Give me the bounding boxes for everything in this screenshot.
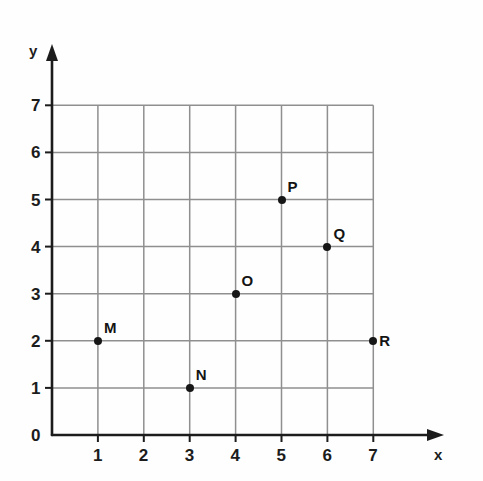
y-axis-arrow-icon	[46, 44, 58, 61]
y-axis-tick-label: 3	[31, 286, 40, 303]
data-point-marker	[94, 337, 102, 345]
axis-lines	[46, 44, 444, 441]
y-axis-title: y	[29, 43, 37, 58]
data-point-marker	[323, 243, 331, 251]
data-point-marker	[186, 384, 194, 392]
x-axis-tick-label: 3	[185, 447, 194, 464]
coordinate-plane-figure: 12345671234567 0 x y MNOPQR	[0, 0, 483, 481]
y-axis-tick-label: 4	[31, 239, 40, 256]
x-axis-tick-label: 7	[368, 447, 377, 464]
y-axis-tick-label: 5	[31, 192, 40, 209]
data-point-label: O	[242, 273, 254, 288]
y-axis-tick-label: 6	[31, 144, 40, 161]
data-point-marker	[232, 290, 240, 298]
y-axis-tick-label: 7	[31, 97, 40, 114]
data-point-label: M	[104, 320, 117, 335]
data-point-marker	[278, 196, 286, 204]
tick-marks	[45, 105, 373, 442]
data-point-label: N	[196, 367, 207, 382]
x-axis-tick-label: 6	[322, 447, 331, 464]
x-axis-tick-label: 5	[277, 447, 286, 464]
y-axis-tick-label: 2	[31, 333, 40, 350]
data-point-label: R	[379, 333, 390, 348]
x-axis-tick-label: 4	[231, 447, 240, 464]
x-axis-arrow-icon	[427, 429, 444, 441]
y-axis-tick-label: 1	[31, 380, 40, 397]
origin-tick-label: 0	[31, 427, 40, 444]
x-axis-title: x	[434, 447, 442, 462]
data-point-label: Q	[333, 226, 345, 241]
data-point-label: P	[288, 179, 298, 194]
grid-lines	[52, 105, 373, 435]
plot-canvas	[0, 0, 483, 481]
x-axis-tick-label: 2	[139, 447, 148, 464]
x-axis-tick-label: 1	[93, 447, 102, 464]
